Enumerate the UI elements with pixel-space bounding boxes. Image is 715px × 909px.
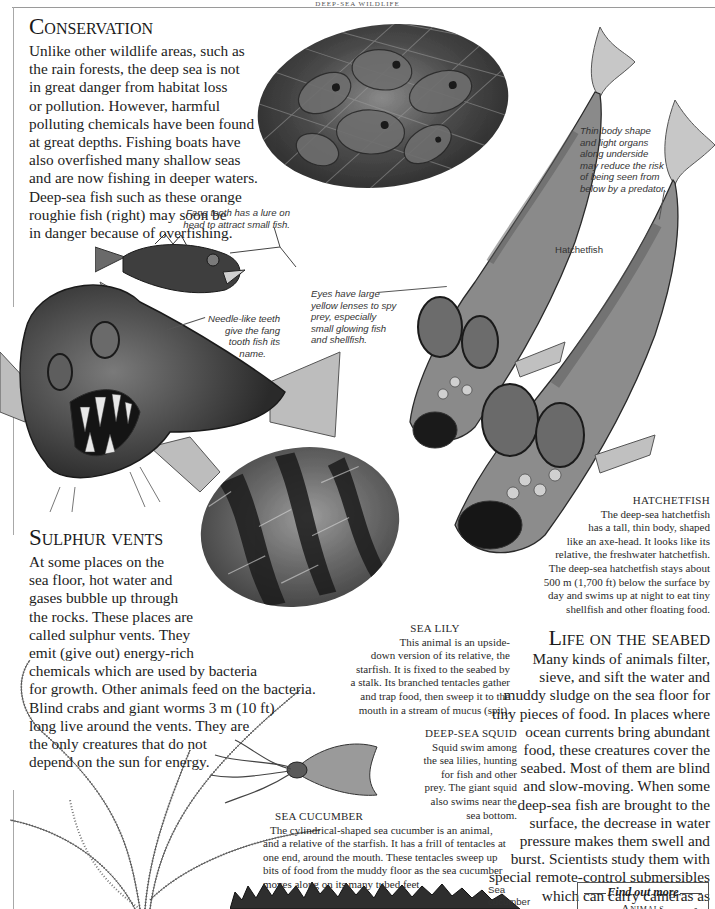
caption-fang-lure: Fang tooth has a lure on head to attract…: [160, 207, 290, 230]
text-line: also overfished many shallow seas: [29, 151, 279, 169]
caption-line: Needle-like teeth: [200, 313, 280, 325]
text-line: in great danger from habitat loss: [29, 78, 279, 96]
text-line: food, these creatures cover the: [470, 741, 710, 759]
find-out-more-box: Find out more Animals: [577, 882, 709, 909]
text-line: or pollution. However, harmful: [29, 97, 279, 115]
find-out-more-link-animals[interactable]: Animals: [578, 902, 708, 909]
seabed-body: Many kinds of animals filter, sieve, and…: [470, 650, 710, 909]
text-line: gases bubble up through: [29, 589, 329, 607]
text-line: tiny pieces of food. In places where: [470, 705, 710, 723]
text-line: the rocks. These places are: [29, 608, 329, 626]
text-line: called sulphur vents. They: [29, 626, 329, 644]
text-line: the only creatures that do not: [29, 735, 329, 753]
caption-line: small glowing fish: [311, 323, 421, 335]
hatchetfish-heading: HATCHETFISH: [440, 494, 710, 508]
text-line: sea floor, hot water and: [29, 571, 329, 589]
caption-line: give the fang: [200, 325, 280, 337]
text-line: The deep-sea hatchetfish: [440, 508, 710, 522]
top-rule: [12, 7, 715, 8]
caption-line: head to attract small fish.: [160, 219, 290, 231]
caption-fang-teeth: Needle-like teeth give the fang tooth fi…: [200, 313, 280, 359]
text-line: polluting chemicals have been found: [29, 115, 279, 133]
caption-line: Fang tooth has a lure on: [160, 207, 290, 219]
text-line: Blind crabs and giant worms 3 m (10 ft): [29, 699, 329, 717]
text-line: ocean currents bring abundant: [470, 723, 710, 741]
caption-line: tooth fish its: [200, 336, 280, 348]
label-hatchetfish: Hatchetfish: [555, 244, 603, 256]
text-line: At some places on the: [29, 553, 329, 571]
text-line: day and swims up at night to eat tiny: [440, 589, 710, 603]
text-line: deep-sea fish are brought to the: [470, 796, 710, 814]
text-line: The deep-sea hatchetfish stays about: [440, 562, 710, 576]
text-line: Many kinds of animals filter,: [470, 650, 710, 668]
fangtooth-illustration: [0, 262, 345, 512]
text-line: shellfish and other floating food.: [440, 603, 710, 617]
seabed-heading: Life on the seabed: [470, 627, 710, 649]
caption-line: along underside: [580, 148, 710, 160]
caption-line: name.: [200, 348, 280, 360]
text-line: has a tall, thin body, shaped: [440, 521, 710, 535]
text-line: depend on the sun for energy.: [29, 753, 329, 771]
text-line: and slow-moving. When some: [470, 777, 710, 795]
text-line: Unlike other wildlife areas, such as: [29, 42, 279, 60]
text-line: pressure makes them swell and: [470, 832, 710, 850]
caption-line: may reduce the risk: [580, 160, 710, 172]
text-line: burst. Scientists study them with: [470, 850, 710, 868]
text-line: surface, the decrease in water: [470, 814, 710, 832]
text-line: long live around the vents. They are: [29, 717, 329, 735]
caption-line: of being seen from: [580, 171, 710, 183]
find-out-more-title: Find out more: [578, 885, 708, 900]
text-line: sieve, and sift the water and: [470, 668, 710, 686]
conservation-heading: Conservation: [29, 15, 153, 38]
caption-line: prey, especially: [311, 311, 421, 323]
text-line: for growth. Other animals feed on the ba…: [29, 680, 329, 698]
text-line: seabed. Most of them are blind: [470, 759, 710, 777]
caption-eyes: Eyes have large yellow lenses to spy pre…: [311, 288, 421, 346]
caption-line: and light organs: [580, 137, 710, 149]
text-line: Deep-sea fish such as these orange: [29, 188, 279, 206]
text-line: like an axe-head. It looks like its: [440, 535, 710, 549]
text-line: chemicals which are used by bacteria: [29, 662, 329, 680]
text-line: muddy sludge on the sea floor for: [470, 686, 710, 704]
text-line: at great depths. Fishing boats have: [29, 133, 279, 151]
caption-thin-body: Thin body shape and light organs along u…: [580, 125, 710, 195]
caption-line: Thin body shape: [580, 125, 710, 137]
hatchetfish-description: HATCHETFISH The deep-sea hatchetfish has…: [440, 494, 710, 616]
sulphur-vents-body: At some places on the sea floor, hot wat…: [29, 553, 329, 771]
text-line: the rain forests, the deep sea is not: [29, 60, 279, 78]
caption-line: yellow lenses to spy: [311, 300, 421, 312]
sulphur-vents-heading: Sulphur vents: [29, 526, 163, 549]
text-line: emit (give out) energy-rich: [29, 644, 329, 662]
caption-line: and shellfish.: [311, 334, 421, 346]
text-line: and are now fishing in deeper waters.: [29, 169, 279, 187]
text-line: relative, the freshwater hatchetfish.: [440, 548, 710, 562]
caption-line: below by a predator.: [580, 183, 710, 195]
text-line: 500 m (1,700 ft) below the surface by: [440, 576, 710, 590]
